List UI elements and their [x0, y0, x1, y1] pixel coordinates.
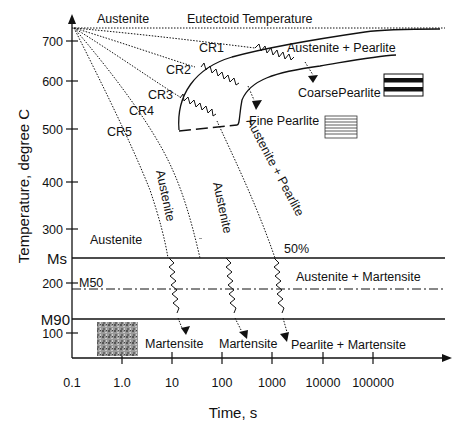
y-tick-300: 300 [42, 223, 63, 237]
arrow-fine-pearlite-icon [252, 100, 262, 110]
y-axis [68, 14, 76, 358]
pearlite-bottom-dashed [179, 125, 237, 131]
cct-diagram: 700 600 500 400 300 Ms 200 M90 100 0.1 1… [0, 0, 458, 428]
x-tick-10: 10 [165, 376, 179, 390]
y-tick-labels: 700 600 500 400 300 Ms 200 M90 100 [41, 35, 70, 341]
y-tick-700: 700 [42, 35, 63, 49]
label-cr5: CR5 [107, 125, 132, 139]
label-eutectoid: Eutectoid Temperature [187, 12, 313, 26]
x-tick-100: 100 [212, 376, 233, 390]
y-axis-arrow-icon [68, 14, 76, 24]
label-austenite-top: Austenite [97, 12, 149, 26]
y-tick-100: 100 [42, 327, 63, 341]
label-martensite-2: Martensite [219, 337, 277, 351]
x-tick-0.1: 0.1 [63, 376, 80, 390]
label-pearlite-martensite: Pearlite + Martensite [291, 338, 406, 352]
label-austenite-martensite: Austenite + Martensite [296, 270, 421, 284]
y-tick-ms: Ms [47, 250, 67, 267]
speck [199, 238, 202, 239]
label-cr1: CR1 [199, 41, 224, 55]
x-tick-labels: 0.1 1.0 10 100 1000 10000 100000 [63, 376, 394, 390]
x-axis-title: Time, s [209, 404, 258, 421]
label-fifty-percent: 50% [284, 242, 309, 256]
arrow-pearlite-martensite-icon [280, 332, 289, 342]
label-curve-austenite-pearlite: Austenite + Pearlite [243, 116, 306, 219]
label-cr2: CR2 [166, 63, 191, 77]
label-martensite-1: Martensite [145, 337, 203, 351]
y-tick-500: 500 [42, 123, 63, 137]
coarse-pearlite-structure-icon [384, 74, 423, 96]
cooling-curve-cr5 [74, 28, 168, 258]
x-tick-100000: 100000 [352, 376, 394, 390]
y-axis-title: Temperature, degree C [15, 109, 32, 263]
label-cr3: CR3 [148, 88, 173, 102]
label-curve-austenite-2: Austenite [210, 181, 235, 235]
label-coarse-pearlite: CoarsePearlite [298, 86, 381, 100]
x-tick-10000: 10000 [306, 376, 341, 390]
cooling-curve-cr3 [74, 28, 180, 97]
y-tick-600: 600 [42, 75, 63, 89]
label-curve-austenite-1: Austenite [153, 169, 178, 223]
cooling-curve-cr1 [74, 28, 255, 48]
arrow-coarse-pearlite-icon [308, 75, 318, 83]
y-tick-200: 200 [42, 277, 63, 291]
fine-pearlite-structure-icon [325, 116, 357, 138]
arrow-martensite-1-icon [181, 326, 190, 335]
y-tick-400: 400 [42, 176, 63, 190]
x-tick-1000: 1000 [258, 376, 286, 390]
x-axis-arrow-icon [442, 354, 452, 362]
label-austenite-pearlite-top: Austenite + Pearlite [287, 41, 396, 55]
label-austenite-low: Austenite [90, 233, 142, 247]
label-cr4: CR4 [129, 104, 154, 118]
y-tick-m90: M90 [41, 311, 70, 328]
martensite-micrograph-image [97, 322, 138, 356]
x-tick-1.0: 1.0 [113, 376, 130, 390]
label-m50: M50 [79, 276, 103, 290]
